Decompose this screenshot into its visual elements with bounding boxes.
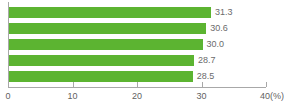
x-tick-label: 20 [132,91,142,102]
x-tick-label: 10 [68,91,78,102]
bar-1 [9,23,206,34]
x-tick-label: 30 [197,91,207,102]
x-tick [73,82,74,87]
x-tick [202,82,203,87]
x-tick [266,82,267,87]
bar-2 [9,39,203,50]
bar-value-label: 30.0 [207,37,225,51]
x-tick [8,82,9,87]
bar-3 [9,55,194,66]
x-tick [137,82,138,87]
horizontal-bar-chart: 31.3 30.6 30.0 28.7 28.5 010203040(%) [0,0,284,110]
x-axis-line [8,87,266,88]
bar-value-label: 31.3 [215,5,233,19]
bar-value-label: 28.5 [197,69,215,83]
bar-0 [9,7,211,18]
bar-value-label: 30.6 [210,21,228,35]
x-tick-label: 40(%) [260,91,284,102]
plot-area: 31.3 30.6 30.0 28.7 28.5 010203040(%) [0,0,284,110]
x-tick-label: 0 [6,91,11,102]
bar-value-label: 28.7 [198,53,216,67]
bars-layer: 31.3 30.6 30.0 28.7 28.5 [9,0,284,87]
bar-4 [9,71,193,82]
